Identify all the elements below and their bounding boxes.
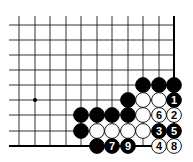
black-stone <box>90 139 105 154</box>
black-stone <box>121 108 136 123</box>
move-number: 1 <box>171 94 177 106</box>
move-number: 4 <box>156 140 163 152</box>
black-stone-move-3: 3 <box>152 124 167 139</box>
white-stone <box>105 124 120 139</box>
white-stone-move-6: 6 <box>152 108 167 123</box>
white-stone <box>136 124 151 139</box>
move-number: 5 <box>171 125 177 137</box>
move-number: 7 <box>109 140 115 152</box>
black-stone-move-5: 5 <box>167 124 182 139</box>
star-points <box>33 98 37 102</box>
move-number: 8 <box>171 140 177 152</box>
black-stone-move-7: 7 <box>105 139 120 154</box>
black-stone <box>152 78 167 93</box>
move-number: 2 <box>171 109 177 121</box>
white-stone <box>136 93 151 108</box>
star-point <box>33 98 37 102</box>
move-number: 9 <box>125 140 131 152</box>
black-stone <box>136 78 151 93</box>
black-stone-move-9: 9 <box>121 139 136 154</box>
stones-layer: 162357948 <box>74 78 182 154</box>
white-stone <box>152 93 167 108</box>
move-number: 6 <box>156 109 162 121</box>
black-stone <box>74 124 89 139</box>
black-stone <box>74 108 89 123</box>
black-stone <box>167 78 182 93</box>
white-stone-move-4: 4 <box>152 139 167 154</box>
black-stone-move-1: 1 <box>167 93 182 108</box>
black-stone <box>90 108 105 123</box>
black-stone <box>105 108 120 123</box>
go-board: 162357948 <box>0 0 193 162</box>
white-stone-move-2: 2 <box>167 108 182 123</box>
white-stone <box>121 124 136 139</box>
white-stone <box>136 108 151 123</box>
move-number: 3 <box>156 125 162 137</box>
white-stone-move-8: 8 <box>167 139 182 154</box>
black-stone <box>121 93 136 108</box>
white-stone <box>90 124 105 139</box>
